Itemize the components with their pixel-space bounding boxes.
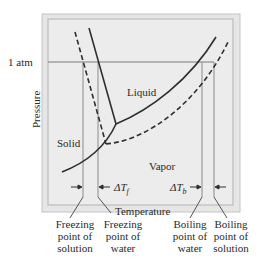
caption-boiling-solution: Boilingpoint ofsolution (196, 218, 265, 254)
caption-freezing-water: Freezingpoint ofwater (88, 218, 158, 254)
vapor-region-label: Vapor (149, 160, 175, 172)
delta-tf-label: ΔTf (114, 181, 129, 198)
pressure-axis-label: Pressure (30, 91, 42, 128)
temperature-axis-label: Temperature (115, 205, 170, 217)
solid-region-label: Solid (57, 137, 80, 149)
liquid-region-label: Liquid (127, 86, 156, 98)
one-atm-label: 1 atm (8, 56, 33, 68)
delta-tb-label: ΔTb (170, 181, 187, 198)
